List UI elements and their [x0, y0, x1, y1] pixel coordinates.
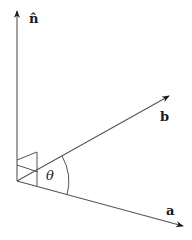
angle-arc	[62, 156, 69, 195]
label-b: b	[160, 109, 169, 124]
label-theta: θ	[46, 168, 54, 183]
label-a: a	[166, 203, 175, 218]
vector-b	[17, 96, 169, 181]
vector-diagram: n̂ b a θ	[0, 0, 192, 240]
right-angle-marker	[17, 152, 38, 186]
vector-a	[17, 181, 183, 226]
label-n-hat: n̂	[29, 11, 39, 26]
